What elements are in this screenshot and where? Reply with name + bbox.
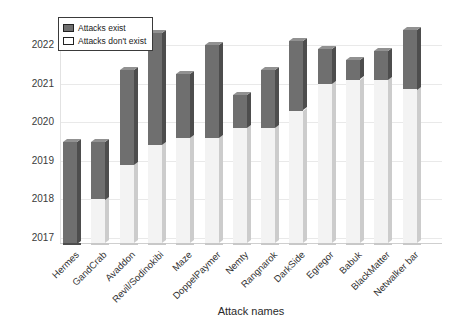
bar-maze-light-side xyxy=(190,135,194,243)
bar-hermes-base xyxy=(63,243,81,245)
bar-hermes-dark-front xyxy=(63,142,77,244)
legend: Attacks exist Attacks don't exist xyxy=(58,17,153,51)
bar-darkside-light-front xyxy=(289,111,303,243)
legend-item-attacks-dont-exist: Attacks don't exist xyxy=(63,34,146,47)
legend-item-attacks-exist: Attacks exist xyxy=(63,21,146,34)
bar-nemty-light-side xyxy=(247,125,251,243)
y-tick-2021: 2021 xyxy=(32,78,54,89)
bar-avaddon-light-side xyxy=(134,162,138,243)
bar-rangnarok-dark-front xyxy=(261,70,275,128)
bar-blackmatter-dark-side xyxy=(388,48,392,80)
y-tick-2018: 2018 xyxy=(32,193,54,204)
bar-netwalker-bar-top xyxy=(403,27,421,30)
bar-doppelpaymer-base xyxy=(205,243,223,245)
ransomware-timeline-chart: Attacks exist Attacks don't exist 201720… xyxy=(0,0,451,330)
bar-avaddon-dark-side xyxy=(134,67,138,165)
bar-darkside-dark-front xyxy=(289,41,303,110)
bar-gandcrab-dark-side xyxy=(105,138,109,199)
bar-gandcrab-dark-front xyxy=(91,142,105,200)
bar-blackmatter-light-front xyxy=(374,80,388,243)
bar-nemty-dark-front xyxy=(233,95,247,128)
bar-darkside-light-side xyxy=(303,108,307,243)
bar-revil-sodinokibi-light-front xyxy=(148,145,162,243)
bar-egregor-light-side xyxy=(332,81,336,243)
bar-doppelpaymer-light-front xyxy=(205,138,219,243)
bar-avaddon-base xyxy=(120,243,138,245)
bar-gandcrab-light-side xyxy=(105,196,109,243)
bar-rangnarok-light-front xyxy=(261,128,275,243)
legend-swatch-attacks-exist xyxy=(63,24,74,32)
bar-doppelpaymer-dark-side xyxy=(219,42,223,138)
bar-netwalker-bar-light-side xyxy=(417,86,421,243)
bar-nemty-dark-side xyxy=(247,92,251,128)
bar-gandcrab-light-front xyxy=(91,199,105,243)
bar-revil-sodinokibi-dark-side xyxy=(162,30,166,145)
bar-doppelpaymer-light-side xyxy=(219,135,223,243)
bar-maze-dark-side xyxy=(190,71,194,138)
bar-babuk-base xyxy=(346,243,364,245)
legend-label-attacks-exist: Attacks exist xyxy=(78,23,126,33)
y-tick-2019: 2019 xyxy=(32,155,54,166)
bar-rangnarok-light-side xyxy=(275,125,279,243)
bar-egregor-dark-side xyxy=(332,46,336,84)
bar-maze-base xyxy=(176,243,194,245)
bar-babuk-dark-front xyxy=(346,60,360,79)
bar-blackmatter-light-side xyxy=(388,77,392,243)
bar-netwalker-bar-dark-side xyxy=(417,27,421,90)
x-tick-maze: Maze xyxy=(170,249,194,273)
bar-maze-dark-front xyxy=(176,74,190,138)
bar-egregor-base xyxy=(318,243,336,245)
y-tick-2020: 2020 xyxy=(32,116,54,127)
bar-avaddon-light-front xyxy=(120,165,134,243)
legend-swatch-attacks-dont-exist xyxy=(63,37,74,45)
bar-babuk-light-front xyxy=(346,80,360,243)
bar-darkside-base xyxy=(289,243,307,245)
x-axis-title: Attack names xyxy=(60,305,442,317)
bar-gandcrab-base xyxy=(91,243,109,245)
y-axis-line xyxy=(60,20,61,243)
x-tick-egregor: Egregor xyxy=(304,249,336,281)
bar-darkside-dark-side xyxy=(303,38,307,110)
bar-revil-sodinokibi-light-side xyxy=(162,142,166,243)
bar-babuk-light-side xyxy=(360,77,364,243)
x-tick-revil-sodinokibi: Revil/Sodinokibi xyxy=(110,249,166,305)
bar-blackmatter-dark-front xyxy=(374,51,388,80)
bar-babuk-dark-side xyxy=(360,57,364,79)
bar-revil-sodinokibi-base xyxy=(148,243,166,245)
bar-rangnarok-base xyxy=(261,243,279,245)
bar-egregor-light-front xyxy=(318,84,332,243)
bar-rangnarok-dark-side xyxy=(275,67,279,128)
bar-netwalker-bar-base xyxy=(403,243,421,245)
legend-label-attacks-dont-exist: Attacks don't exist xyxy=(78,36,146,46)
bar-egregor-dark-front xyxy=(318,49,332,84)
bar-maze-light-front xyxy=(176,138,190,243)
y-tick-2017: 2017 xyxy=(32,232,54,243)
bar-netwalker-bar-dark-front xyxy=(403,30,417,90)
bar-doppelpaymer-dark-front xyxy=(205,45,219,138)
bar-nemty-base xyxy=(233,243,251,245)
bar-avaddon-dark-front xyxy=(120,70,134,165)
bar-hermes-dark-side xyxy=(77,138,81,243)
bar-nemty-light-front xyxy=(233,128,247,243)
bar-blackmatter-base xyxy=(374,243,392,245)
bar-netwalker-bar-light-front xyxy=(403,89,417,243)
y-tick-2022: 2022 xyxy=(32,39,54,50)
